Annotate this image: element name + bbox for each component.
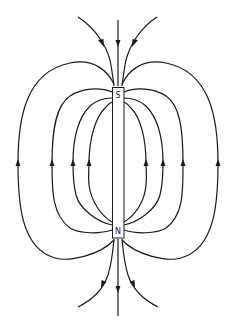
arrow-up-icon [144, 159, 149, 166]
south-pole-label: S [115, 91, 120, 100]
bar-magnet: S N [113, 88, 125, 239]
arrow-down-icon [116, 286, 121, 293]
arrow-down-icon [132, 39, 138, 47]
field-loop-right-4 [124, 102, 146, 222]
field-loops-right [122, 62, 218, 259]
field-loop-left-outer [18, 62, 114, 259]
north-pole-label: N [115, 227, 121, 236]
arrow-up-icon [50, 159, 55, 166]
magnet-body [113, 88, 125, 239]
magnetic-field-diagram: S N [0, 0, 230, 330]
arrow-up-icon [87, 159, 92, 166]
arrow-up-icon [16, 159, 21, 166]
arrow-down-icon [98, 39, 104, 47]
field-loop-left-4 [89, 102, 112, 222]
field-lines-bottom [78, 239, 158, 316]
arrow-up-icon [181, 159, 186, 166]
field-loops-left [18, 62, 114, 259]
field-loop-right-outer [122, 62, 218, 259]
arrow-down-icon [116, 40, 121, 47]
field-loop-right-3 [124, 98, 163, 225]
field-lines-top [78, 17, 157, 86]
arrow-up-icon [216, 159, 221, 166]
arrow-up-icon [71, 159, 76, 166]
field-line-bottom-left [78, 239, 114, 307]
field-line-bottom-right [122, 239, 158, 307]
field-loop-left-3 [73, 98, 112, 225]
arrow-up-icon [161, 159, 166, 166]
